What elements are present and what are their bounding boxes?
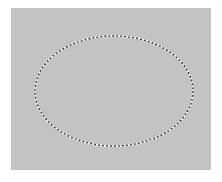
elliptical-selection-marquee[interactable] — [0, 0, 222, 182]
